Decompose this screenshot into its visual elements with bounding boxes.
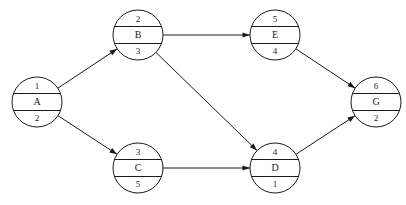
node-e[interactable]: 5E4 [250, 10, 300, 60]
edge-line [296, 49, 355, 88]
node-label: B [135, 29, 142, 40]
node-top-value: 3 [136, 147, 141, 157]
node-bottom-value: 3 [136, 46, 141, 56]
edge-arrowhead [347, 82, 355, 88]
node-label: G [372, 96, 379, 107]
edge-line [58, 116, 117, 155]
edge-e-to-g [296, 49, 355, 88]
node-bottom-value: 1 [273, 179, 278, 189]
edge-c-to-d [163, 165, 250, 170]
node-g[interactable]: 6G2 [351, 77, 401, 127]
node-bottom-value: 2 [35, 113, 40, 123]
edge-arrowhead [347, 116, 355, 122]
node-bottom-value: 2 [374, 113, 379, 123]
node-top-value: 6 [374, 81, 379, 91]
node-bottom-value: 4 [273, 46, 278, 56]
node-a[interactable]: 1A2 [12, 77, 62, 127]
node-label: C [135, 162, 142, 173]
node-b[interactable]: 2B3 [113, 10, 163, 60]
network-diagram: 1A22B33C55E44D16G2 [0, 0, 406, 205]
edge-b-to-d [156, 52, 257, 150]
edge-b-to-e [163, 32, 250, 37]
node-label: E [272, 29, 278, 40]
node-label: D [271, 162, 278, 173]
node-label: A [33, 96, 41, 107]
edge-arrowhead [109, 148, 117, 154]
edge-d-to-g [296, 116, 355, 155]
edge-line [296, 116, 355, 155]
node-top-value: 1 [35, 81, 40, 91]
node-bottom-value: 5 [136, 179, 141, 189]
node-d[interactable]: 4D1 [250, 143, 300, 193]
edge-line [58, 49, 117, 88]
edge-a-to-c [58, 116, 117, 155]
node-top-value: 4 [273, 147, 278, 157]
edge-arrowhead [109, 49, 117, 55]
edge-arrowhead [243, 32, 251, 37]
edge-arrowhead [243, 165, 251, 170]
node-c[interactable]: 3C5 [113, 143, 163, 193]
edge-a-to-b [58, 49, 117, 88]
edge-line [156, 52, 257, 150]
node-top-value: 2 [136, 14, 141, 24]
diagram-canvas: 1A22B33C55E44D16G2 [0, 0, 406, 205]
node-top-value: 5 [273, 14, 278, 24]
edges-layer [58, 32, 355, 170]
